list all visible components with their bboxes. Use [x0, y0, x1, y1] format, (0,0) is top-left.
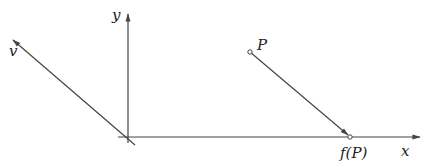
y-axis-label: y	[111, 6, 121, 24]
vector-v-label: v	[9, 42, 18, 60]
image-point-label: f(P)	[339, 144, 367, 162]
point-p-marker	[248, 50, 252, 54]
diagram-canvas: y x v P f(P)	[0, 0, 427, 164]
x-axis-label: x	[401, 142, 410, 160]
point-p-label: P	[256, 36, 268, 54]
vector-v-arrow	[13, 40, 135, 145]
projection-arrow	[250, 52, 348, 135]
point-fp-marker	[348, 135, 352, 139]
